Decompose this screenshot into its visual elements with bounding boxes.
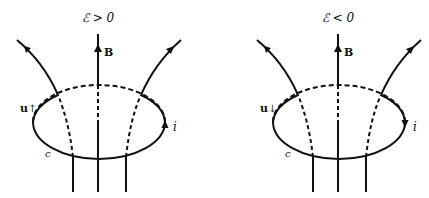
field-arrow-icon xyxy=(94,44,102,52)
current-arrow-up-icon xyxy=(162,120,169,128)
velocity-label: u xyxy=(260,102,268,115)
velocity-arrow-up-icon: ↑ xyxy=(28,103,36,114)
central-field-line xyxy=(334,34,342,192)
right-field-line xyxy=(126,40,181,192)
field-label-b: B xyxy=(344,46,353,59)
current-arrow-down-icon xyxy=(402,120,409,128)
diagram-emf-positive: ℰ > 0 B xyxy=(17,11,181,192)
current-loop xyxy=(33,85,169,159)
velocity-arrow-down-icon: ↓ xyxy=(268,103,276,114)
left-field-line xyxy=(17,40,73,192)
field-arrow-icon xyxy=(334,44,342,52)
diagram-emf-negative: ℰ < 0 B u ↓ i c xyxy=(257,11,421,192)
loop-label: c xyxy=(45,148,51,159)
title-emf-negative: ℰ < 0 xyxy=(322,11,355,25)
induction-diagrams: ℰ > 0 B xyxy=(0,0,429,198)
current-label: i xyxy=(413,120,417,134)
right-field-line xyxy=(366,40,421,192)
current-label: i xyxy=(173,120,177,134)
loop-label: c xyxy=(285,148,291,159)
central-field-line xyxy=(94,34,102,192)
title-emf-positive: ℰ > 0 xyxy=(82,11,115,25)
current-loop xyxy=(273,85,409,159)
field-label-b: B xyxy=(104,46,113,59)
left-field-line xyxy=(257,40,313,192)
velocity-label: u xyxy=(20,102,28,115)
